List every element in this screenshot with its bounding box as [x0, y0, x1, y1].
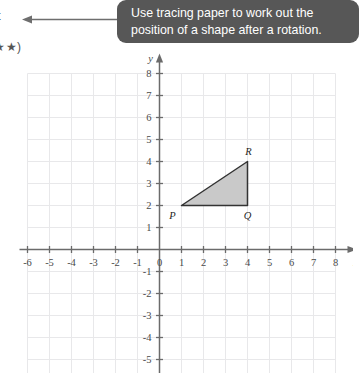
x-tick-label: -2 [111, 257, 120, 268]
vertex-label-p: P [168, 210, 176, 221]
tick-labels: -6-5-4-3-2-101234567887654321-1-2-3-4-5-… [23, 68, 338, 373]
x-tick-label: 2 [201, 257, 206, 268]
vertex-label-r: R [244, 146, 252, 157]
x-tick-label: 0 [157, 257, 162, 268]
y-tick-label: 6 [146, 112, 151, 123]
y-tick-label: 2 [146, 200, 151, 211]
x-tick-label: 4 [245, 257, 251, 268]
axis-titles: xy [147, 53, 353, 268]
x-axis-label: x [352, 257, 353, 268]
y-axis-label: y [147, 53, 153, 64]
y-tick-label: 8 [146, 68, 151, 79]
x-tick-label: 6 [289, 257, 294, 268]
vertex-label-q: Q [244, 210, 252, 221]
y-tick-label: 3 [146, 178, 151, 189]
x-tick-label: -3 [89, 257, 98, 268]
x-tick-label: -6 [23, 257, 32, 268]
y-tick-label: -2 [143, 288, 152, 299]
y-tick-label: 7 [146, 90, 151, 101]
y-tick-label: 1 [146, 222, 151, 233]
x-tick-label: 3 [223, 257, 228, 268]
axes [20, 54, 354, 373]
y-tick-label: -1 [143, 266, 152, 277]
x-tick-label: -4 [67, 257, 76, 268]
y-tick-label: -3 [143, 310, 152, 321]
grid-lines [28, 74, 336, 373]
x-tick-label: -1 [133, 257, 142, 268]
x-tick-label: 5 [267, 257, 272, 268]
y-tick-label: 5 [146, 134, 151, 145]
x-tick-label: 8 [333, 257, 338, 268]
y-tick-label: -4 [143, 332, 152, 343]
x-tick-label: 1 [179, 257, 184, 268]
y-tick-label: -5 [143, 354, 152, 365]
x-tick-label: 7 [311, 257, 316, 268]
y-tick-label: 4 [146, 156, 152, 167]
x-tick-label: -5 [45, 257, 54, 268]
